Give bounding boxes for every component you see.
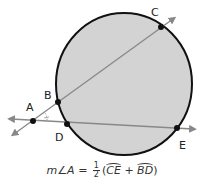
arc-ce: CE <box>106 164 121 177</box>
point-d <box>64 121 70 127</box>
label-d: D <box>55 131 63 144</box>
point-a <box>30 118 36 124</box>
point-e <box>174 125 180 131</box>
angle-formula: m∠A = 12(CE + BD) <box>0 162 204 179</box>
angle-tick <box>44 117 49 118</box>
label-c: C <box>151 6 159 19</box>
label-e: E <box>179 139 186 152</box>
circle <box>56 13 192 155</box>
formula-lhs: m∠A = <box>47 164 91 177</box>
point-b <box>55 99 61 105</box>
label-a: A <box>26 101 34 114</box>
arc-bd: BD <box>137 164 153 177</box>
fraction-half: 12 <box>93 162 100 179</box>
point-c <box>158 24 164 30</box>
secant-diagram: A B C D E <box>0 0 204 187</box>
label-b: B <box>44 89 52 102</box>
